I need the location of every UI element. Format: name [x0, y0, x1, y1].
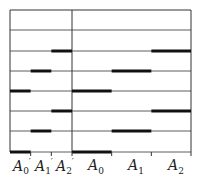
label-a1-prime: A1′	[35, 158, 53, 176]
label-a0-prime: A0′	[13, 158, 31, 176]
label-a0: A0	[88, 158, 104, 176]
label-a2-prime: A2′	[56, 158, 74, 176]
label-a2: A2	[168, 158, 184, 176]
sequence-diagram	[0, 0, 198, 181]
label-a1: A1	[128, 158, 144, 176]
